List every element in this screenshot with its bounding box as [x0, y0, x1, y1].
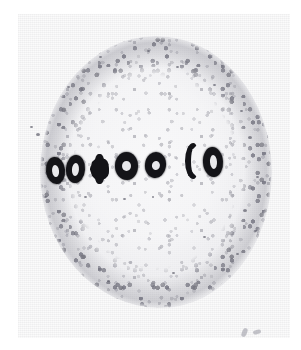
chromosome-5-lumen: [151, 160, 160, 170]
chromosome-3-arm: [87, 156, 111, 183]
corner-mark-1: [240, 327, 248, 337]
chromosome-6: [185, 143, 199, 179]
chromosome-4: [115, 152, 138, 180]
micrograph-figure: Black and white light micrograph of a ro…: [0, 0, 301, 350]
chromosome-6-crescent: [185, 143, 199, 179]
photographic-plate: [18, 14, 290, 338]
chromosome-1-lumen: [51, 164, 59, 177]
chromosome-3: [90, 154, 109, 184]
chromosome-2-lumen: [72, 162, 80, 175]
corner-marks: [240, 326, 266, 338]
cytoplasm-speck: [30, 126, 33, 128]
chromosome-4-lumen: [122, 161, 131, 171]
chromosome-7-lumen: [209, 155, 217, 169]
corner-mark-2: [253, 329, 262, 335]
